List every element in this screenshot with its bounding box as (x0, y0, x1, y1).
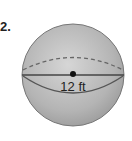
diameter-label: 12 ft (60, 79, 86, 94)
sphere-diagram: 12 ft (0, 0, 132, 141)
center-point (70, 71, 76, 77)
